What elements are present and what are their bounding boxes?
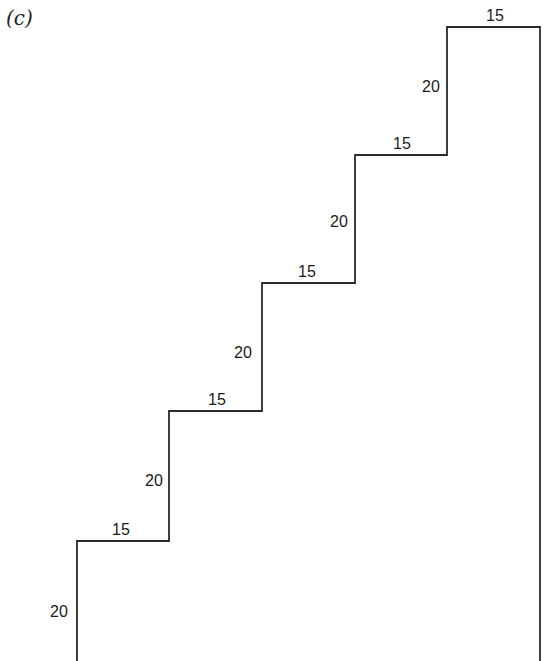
riser-4-label: 20 (330, 214, 348, 230)
riser-5-label: 20 (422, 79, 440, 95)
riser-1-label: 20 (50, 604, 68, 620)
tread-5-label: 15 (486, 8, 504, 24)
tread-4-label: 15 (393, 136, 411, 152)
staircase-profile (77, 27, 540, 661)
tread-2-label: 15 (208, 392, 226, 408)
tread-1-label: 15 (112, 522, 130, 538)
tread-3-label: 15 (298, 264, 316, 280)
riser-2-label: 20 (145, 473, 163, 489)
staircase-outline (0, 0, 546, 661)
riser-3-label: 20 (234, 345, 252, 361)
staircase-diagram: (c) 20 15 20 15 20 15 20 15 20 15 (0, 0, 546, 661)
